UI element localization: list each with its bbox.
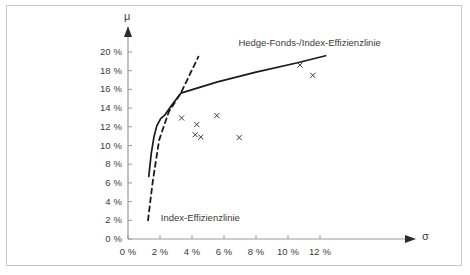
y-tick-label: 18 %: [78, 65, 122, 76]
scatter-marker: [193, 132, 198, 137]
scatter-marker: [179, 115, 184, 120]
hedge-fonds-index-efficiency-line: [149, 56, 326, 177]
x-axis-title: σ: [422, 230, 429, 242]
index-efficiency-line: [148, 57, 198, 221]
x-tick-label: 12 %: [298, 246, 342, 257]
y-axis: [124, 26, 132, 239]
scatter-marker: [194, 122, 199, 127]
hedge-fonds-index-efficiency-line-label: Hedge-Fonds-/Index-Effizienzlinie: [238, 37, 380, 48]
y-tick-label: 12 %: [78, 121, 122, 132]
y-tick-label: 14 %: [78, 102, 122, 113]
y-tick-label: 0 %: [78, 233, 122, 244]
scatter-marker: [198, 134, 203, 139]
y-tick-label: 16 %: [78, 83, 122, 94]
scatter-marker: [214, 113, 219, 118]
series-lines: [148, 56, 326, 221]
chart-figure: 0 %2 %4 %6 %8 %10 %12 %14 %16 %18 %20 % …: [0, 0, 470, 275]
y-axis-title: μ: [124, 10, 130, 22]
scatter-marker: [310, 73, 315, 78]
y-tick-label: 20 %: [78, 46, 122, 57]
scatter-marker: [297, 62, 302, 67]
y-tick-label: 4 %: [78, 196, 122, 207]
y-tick-label: 6 %: [78, 177, 122, 188]
y-tick-label: 8 %: [78, 158, 122, 169]
y-tick-label: 2 %: [78, 214, 122, 225]
index-efficiency-line-label: Index-Effizienzlinie: [161, 212, 240, 223]
efficiency-frontier-plot: [0, 0, 470, 275]
x-axis: [128, 235, 416, 243]
scatter-marker: [237, 135, 242, 140]
y-tick-label: 10 %: [78, 140, 122, 151]
